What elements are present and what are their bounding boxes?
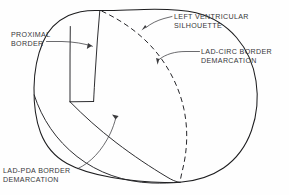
leader-line-proximal-border [47, 42, 93, 47]
label-lad-circ-border-demarcation: LAD-CIRC BORDER DEMARCATION [201, 48, 272, 65]
label-left-ventricular-silhouette: LEFT VENTRICULAR SILHOUETTE [174, 13, 249, 30]
leader-line-left-ventricular-silhouette [146, 17, 172, 28]
label-lad-pda-border-demarcation: LAD-PDA BORDER DEMARCATION [3, 167, 71, 184]
left-ventricular-silhouette-outline [34, 9, 257, 182]
leader-arrowhead-lad-pda [112, 115, 119, 120]
leader-arrowhead-lad-circ [156, 58, 159, 65]
leader-line-lad-circ [159, 52, 200, 60]
lad-circ-border-dashed-curve [102, 11, 187, 182]
diagram-root: LEFT VENTRICULAR SILHOUETTE LAD-CIRC BOR… [0, 0, 289, 195]
lad-pda-border-curve [70, 102, 180, 183]
label-proximal-border: PROXIMAL BORDER [11, 31, 50, 48]
proximal-border-vertical-line [94, 11, 100, 102]
leader-arrowhead-proximal-border [87, 43, 92, 49]
